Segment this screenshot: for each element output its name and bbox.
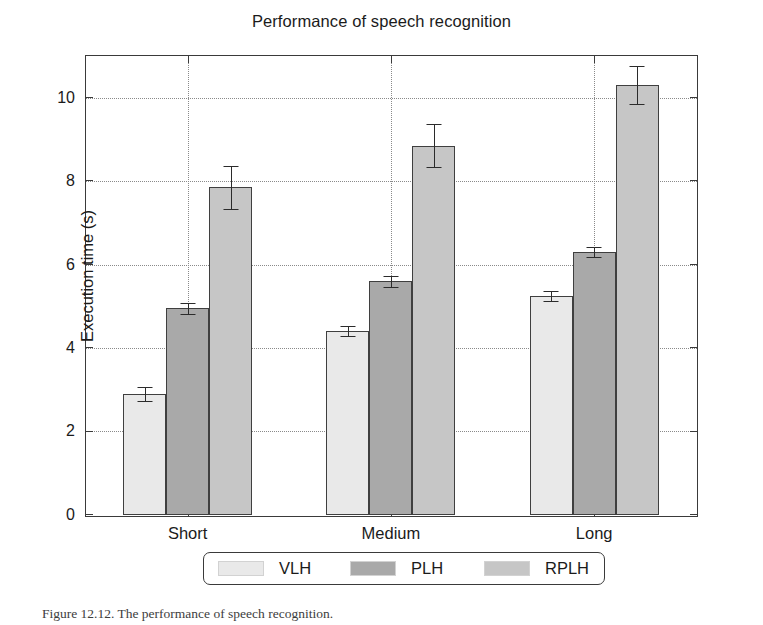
legend-swatch-rplh: [484, 561, 530, 576]
bar-plh-long: [573, 252, 616, 515]
bar-rplh-short: [209, 187, 252, 514]
bar-plh-short: [166, 308, 209, 514]
error-bar-line: [551, 291, 552, 301]
error-bar-line: [434, 124, 435, 167]
error-bar-cap-upper: [223, 166, 238, 167]
legend-label-plh: PLH: [411, 559, 443, 578]
x-group-label-medium: Medium: [362, 524, 421, 543]
bar-vlh-medium: [326, 331, 369, 515]
error-bar-cap-upper: [137, 387, 152, 388]
bar-vlh-long: [530, 296, 573, 515]
error-bar-cap-lower: [630, 104, 645, 105]
figure-container: Performance of speech recognition Execut…: [0, 0, 763, 625]
error-bar-cap-lower: [223, 209, 238, 210]
plot-inner: 0246810ShortMediumLong: [86, 56, 697, 516]
error-bar-cap-upper: [587, 247, 602, 248]
error-bar-cap-upper: [544, 291, 559, 292]
error-bar-cap-lower: [426, 167, 441, 168]
x-tick-mark: [594, 56, 595, 63]
error-bar-line: [188, 303, 189, 315]
y-tick-label: 10: [57, 89, 75, 107]
error-bar-cap-lower: [587, 257, 602, 258]
y-tick-mark: [86, 97, 93, 98]
y-tick-mark: [690, 514, 697, 515]
bar-rplh-medium: [412, 146, 455, 515]
x-group-label-long: Long: [576, 524, 613, 543]
legend-swatch-vlh: [218, 561, 264, 576]
y-tick-label: 4: [66, 339, 75, 357]
chart-title: Performance of speech recognition: [0, 12, 763, 31]
y-tick-label: 2: [66, 422, 75, 440]
y-tick-label: 6: [66, 256, 75, 274]
error-bar-cap-lower: [340, 336, 355, 337]
error-bar-line: [594, 247, 595, 258]
y-tick-mark: [86, 264, 93, 265]
legend-entry-plh[interactable]: PLH: [350, 553, 443, 584]
y-tick-label: 8: [66, 172, 75, 190]
error-bar-cap-upper: [426, 124, 441, 125]
figure-caption: Figure 12.12. The performance of speech …: [42, 606, 722, 622]
y-tick-mark: [86, 431, 93, 432]
error-bar-cap-upper: [383, 276, 398, 277]
legend-label-vlh: VLH: [279, 559, 311, 578]
error-bar-line: [637, 66, 638, 104]
y-tick-mark: [86, 347, 93, 348]
x-tick-mark: [188, 56, 189, 63]
x-group-label-short: Short: [168, 524, 207, 543]
y-tick-label: 0: [66, 506, 75, 524]
plot-area: Execution time (s) 0246810ShortMediumLon…: [85, 55, 698, 517]
bar-plh-medium: [369, 281, 412, 515]
y-tick-mark: [690, 431, 697, 432]
error-bar-cap-lower: [137, 401, 152, 402]
error-bar-line: [145, 387, 146, 400]
y-tick-mark: [690, 264, 697, 265]
y-tick-mark: [86, 180, 93, 181]
error-bar-cap-lower: [180, 314, 195, 315]
legend-entry-rplh[interactable]: RPLH: [484, 553, 589, 584]
y-tick-mark: [86, 514, 93, 515]
error-bar-cap-upper: [180, 303, 195, 304]
error-bar-cap-upper: [340, 326, 355, 327]
x-tick-mark: [391, 56, 392, 63]
error-bar-line: [391, 276, 392, 287]
y-tick-mark: [690, 97, 697, 98]
chart-legend: VLHPLHRPLH: [203, 552, 605, 585]
y-tick-mark: [690, 180, 697, 181]
legend-entry-vlh[interactable]: VLH: [218, 553, 311, 584]
legend-label-rplh: RPLH: [545, 559, 589, 578]
error-bar-cap-lower: [383, 287, 398, 288]
error-bar-line: [231, 166, 232, 209]
error-bar-cap-lower: [544, 301, 559, 302]
legend-swatch-plh: [350, 561, 396, 576]
bar-vlh-short: [123, 394, 166, 515]
y-tick-mark: [690, 347, 697, 348]
error-bar-line: [348, 326, 349, 336]
bar-rplh-long: [616, 85, 659, 515]
error-bar-cap-upper: [630, 66, 645, 67]
